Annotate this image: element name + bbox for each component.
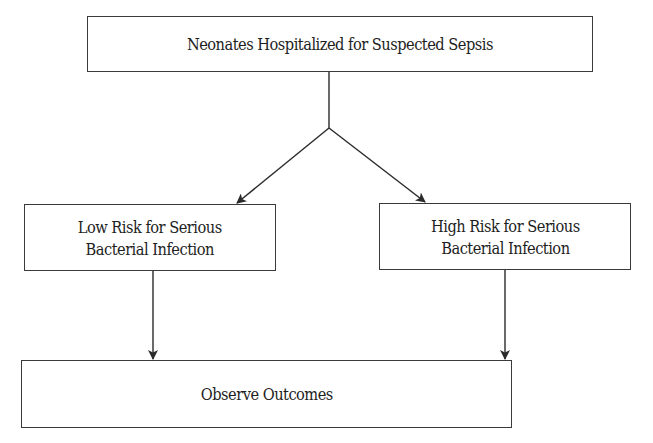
node-label-line: High Risk for Serious bbox=[431, 215, 580, 237]
node-neonates-hospitalized: Neonates Hospitalized for Suspected Seps… bbox=[87, 16, 593, 72]
node-label-line: Low Risk for Serious bbox=[78, 216, 222, 238]
node-label: Low Risk for Serious Bacterial Infection bbox=[78, 216, 222, 260]
node-high-risk: High Risk for Serious Bacterial Infectio… bbox=[379, 203, 631, 270]
node-label-line: Bacterial Infection bbox=[431, 237, 580, 259]
arrow-root-to-low bbox=[237, 128, 329, 203]
node-label: High Risk for Serious Bacterial Infectio… bbox=[431, 215, 580, 259]
node-observe-outcomes: Observe Outcomes bbox=[21, 360, 512, 428]
node-low-risk: Low Risk for Serious Bacterial Infection bbox=[24, 204, 276, 271]
arrow-root-to-high bbox=[329, 128, 425, 202]
node-label: Observe Outcomes bbox=[200, 383, 332, 405]
node-label-line: Bacterial Infection bbox=[78, 238, 222, 260]
node-label: Neonates Hospitalized for Suspected Seps… bbox=[187, 33, 493, 55]
